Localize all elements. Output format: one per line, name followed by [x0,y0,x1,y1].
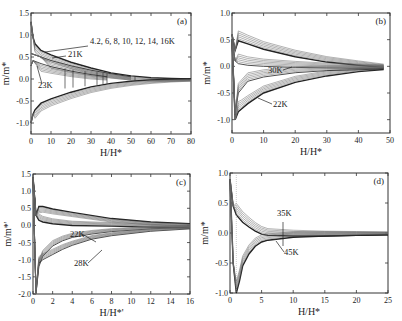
x-tick-label: 20 [67,137,75,146]
x-tick-label: 10 [47,137,55,146]
y-tick-label: 1.0 [21,187,31,196]
data-series [230,179,388,293]
annotation-label: 23K [38,80,54,90]
x-tick-label: 4 [70,297,74,306]
annotation-arrow [88,250,102,263]
annotation-label: 4.2, 6, 8, 10, 12, 14, 16K [90,36,176,46]
data-series [232,40,384,115]
figure: 01020304050607080-1.0-0.50.00.51.01.5H/H… [0,0,402,321]
y-tick-label: 1.5 [19,9,29,18]
y-tick-label: 0.5 [21,204,31,213]
x-tick-label: 20 [291,136,299,145]
y-tick-label: -2.0 [18,290,31,299]
x-tick-label: 0 [29,137,33,146]
x-axis-label: H/H* [100,147,122,158]
y-tick-label: 0.0 [19,75,29,84]
x-tick-label: 10 [289,296,297,305]
x-tick-label: 2 [51,297,55,306]
x-tick-label: 80 [187,137,195,146]
annotation-label: 21K [68,49,84,59]
y-tick-label: 1.5 [21,170,31,179]
y-tick-label: 1.0 [218,169,228,178]
x-axis-label: H/H* [298,306,320,317]
x-tick-label: 0 [230,136,234,145]
x-tick-label: 6 [90,297,94,306]
y-tick-label: -1.5 [18,273,31,282]
x-tick-label: 0 [228,296,232,305]
y-axis-label: m/m* [199,221,210,244]
annotation-label: 22K [70,229,86,239]
y-axis-label: m/m*' [2,221,13,246]
x-tick-label: 10 [127,297,135,306]
panel-label: (c) [176,177,186,187]
x-tick-label: 14 [166,297,174,306]
annotation-label: 30K [268,65,284,75]
panel-a: 01020304050607080-1.0-0.50.00.51.01.5H/H… [0,9,195,158]
panel-d: 0510152025-1.0-0.50.00.51.0H/H*m/m*(d)35… [199,169,392,317]
x-tick-label: 30 [323,136,331,145]
y-tick-label: -1.0 [18,256,31,265]
y-tick-label: 0.0 [21,221,31,230]
panel-label: (b) [376,16,387,26]
x-tick-label: 16 [186,297,194,306]
y-tick-label: 0.0 [220,62,230,71]
x-tick-label: 20 [352,296,360,305]
x-tick-label: 8 [110,297,114,306]
x-tick-label: 50 [386,136,394,145]
y-tick-label: 1.0 [220,9,230,18]
x-tick-label: 40 [107,137,115,146]
x-tick-label: 70 [167,137,175,146]
y-axis-label: m/m* [0,62,11,85]
panel-b: 01020304050-1.0-0.50.00.51.0H/H*m/m*(b)3… [201,9,394,157]
y-tick-label: -0.5 [16,97,29,106]
x-tick-label: 40 [354,136,362,145]
annotation-label: 45K [284,247,300,257]
x-tick-label: 30 [87,137,95,146]
y-tick-label: -1.0 [16,119,29,128]
x-tick-label: 25 [384,296,392,305]
x-axis-label: H/H* [300,146,322,157]
y-tick-label: 0.0 [218,229,228,238]
annotation-label: 22K [273,99,289,109]
panel-label: (d) [374,176,385,186]
annotation-arrow [258,98,272,104]
y-axis-label: m/m* [201,61,212,84]
annotation-label: 35K [277,208,293,218]
data-series [33,177,190,223]
data-series [230,179,388,236]
x-tick-label: 12 [147,297,155,306]
annotation-label: 28K [74,258,90,268]
y-tick-label: 0.5 [19,53,29,62]
panel-c: 0246810121416-2.0-1.5-1.0-0.50.00.51.01.… [2,170,194,318]
y-tick-label: -0.5 [18,239,31,248]
x-tick-label: 10 [260,136,268,145]
y-tick-label: -0.5 [217,89,230,98]
y-tick-label: 1.0 [19,31,29,40]
x-tick-label: 0 [31,297,35,306]
y-tick-label: 0.5 [218,199,228,208]
x-axis-label: H/H*' [99,307,123,318]
panel-label: (a) [177,16,187,26]
x-tick-label: 5 [260,296,264,305]
y-tick-label: 0.5 [220,36,230,45]
y-tick-label: -1.0 [215,289,228,298]
x-tick-label: 15 [321,296,329,305]
x-tick-label: 50 [127,137,135,146]
x-tick-label: 60 [147,137,155,146]
y-tick-label: -1.0 [217,116,230,125]
y-tick-label: -0.5 [215,259,228,268]
